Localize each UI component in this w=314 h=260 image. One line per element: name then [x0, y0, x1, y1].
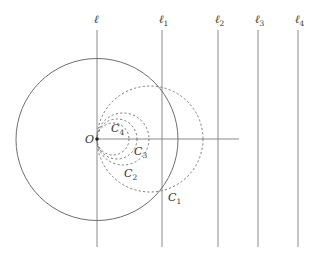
line-label-l4: ℓ4: [295, 13, 305, 28]
line-label-l1: ℓ1: [159, 13, 168, 28]
line-label-l3: ℓ3: [255, 13, 265, 28]
circle-label-C3: C3: [134, 145, 147, 160]
origin-label: O: [85, 133, 94, 146]
circle-labels: C1C2C3C4: [111, 122, 181, 206]
circle-label-C4: C4: [111, 122, 124, 137]
line-label-l2: ℓ2: [215, 13, 225, 28]
circle-label-C1: C1: [168, 191, 181, 206]
line-labels: ℓℓ1ℓ2ℓ3ℓ4: [94, 13, 305, 28]
circle-label-C2: C2: [124, 167, 137, 182]
geometry-diagram: ℓℓ1ℓ2ℓ3ℓ4 C1C2C3C4 O: [0, 0, 314, 260]
line-label-l: ℓ: [94, 13, 99, 26]
origin-point: [95, 137, 99, 141]
